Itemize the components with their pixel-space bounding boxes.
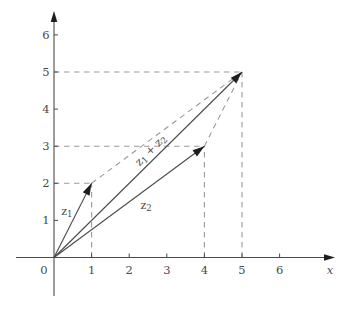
vector-z2-label-subscript: 2 [146, 203, 151, 213]
guide-parallelogram-side-z2 [92, 72, 242, 183]
x-tick-label-4: 4 [201, 263, 208, 277]
vector-z2-arrowhead [192, 146, 204, 156]
x-tick-label-2: 2 [126, 263, 133, 277]
x-axis-label: x [327, 263, 334, 277]
y-tick-label-6: 6 [42, 28, 49, 42]
y-tick-label-1: 1 [42, 213, 49, 227]
guide-parallelogram-side-z1 [204, 72, 242, 146]
x-axis-arrowhead [324, 254, 335, 261]
figure-svg: 1234561234560xz1z2z1 + z2 [0, 0, 352, 311]
x-tick-label-1: 1 [88, 263, 95, 277]
vector-z1-label: z1 [61, 205, 72, 220]
y-tick-label-4: 4 [42, 102, 49, 116]
x-tick-label-6: 6 [276, 263, 283, 277]
y-tick-label-5: 5 [42, 65, 49, 79]
y-tick-label-3: 3 [42, 139, 49, 153]
complex-vector-addition-figure: 1234561234560xz1z2z1 + z2 [0, 0, 352, 311]
vector-z1-plus-z2-label: z1 + z2 [132, 132, 170, 170]
vector-z1-plus-z2-line [54, 72, 242, 258]
y-tick-label-2: 2 [42, 176, 49, 190]
x-tick-label-5: 5 [238, 263, 245, 277]
vector-z1-line [54, 183, 92, 257]
vector-z2-label: z2 [141, 199, 152, 214]
vector-z1-label-subscript: 1 [67, 209, 72, 219]
x-tick-label-3: 3 [163, 263, 170, 277]
origin-label: 0 [40, 263, 47, 277]
vector-z2-line [54, 146, 204, 257]
y-axis-arrowhead [51, 11, 58, 22]
vector-z1-arrowhead [83, 183, 92, 195]
